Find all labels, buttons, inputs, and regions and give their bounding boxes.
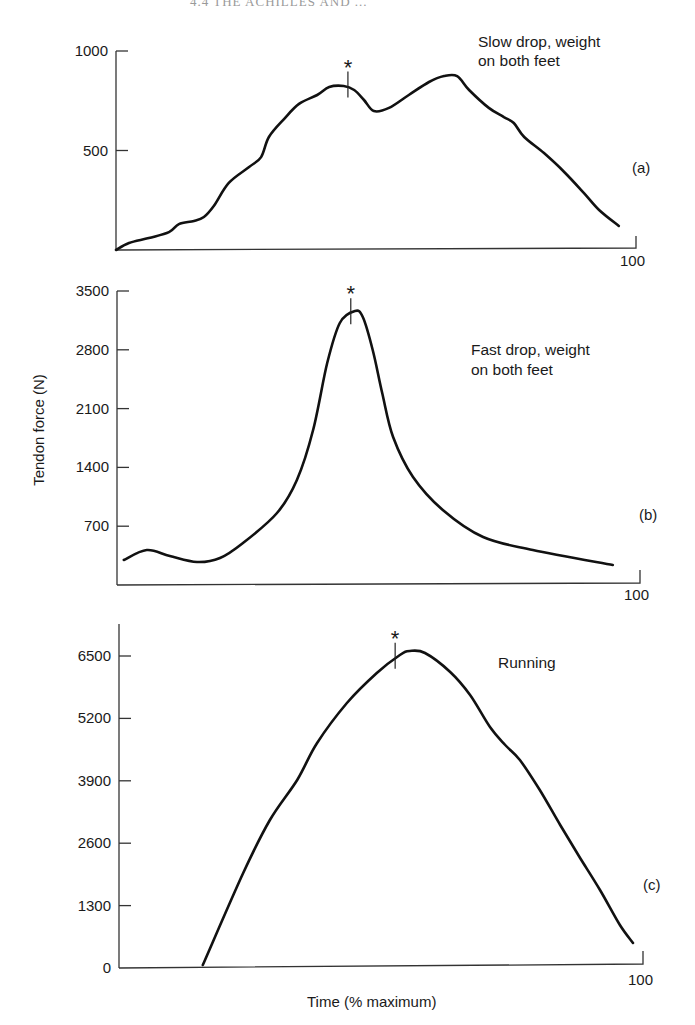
y-tick-label: 2600 — [78, 834, 111, 851]
panel-a-label: (a) — [632, 159, 650, 176]
y-tick-label: 2800 — [76, 341, 109, 358]
y-tick-label: 1300 — [78, 897, 111, 914]
panel-a-title-line1: Slow drop, weight — [478, 33, 601, 50]
panel-c-label: (c) — [643, 876, 661, 893]
panel-a-title-line2: on both feet — [478, 52, 561, 69]
panel-b-fast-drop: 7001400210028003500 100 * Fast drop, wei… — [76, 281, 658, 603]
panel-a-x-axis — [116, 236, 636, 250]
y-tick-label: 2100 — [76, 400, 109, 417]
panel-b-peak-marker: * — [346, 281, 355, 324]
panel-a-peak-marker: * — [344, 55, 353, 98]
y-tick-label: 1400 — [76, 458, 109, 475]
y-tick-label: 0 — [103, 959, 111, 976]
y-axis-title: Tendon force (N) — [30, 374, 47, 486]
y-tick-label: 6500 — [78, 647, 111, 664]
y-tick-label: 700 — [84, 517, 109, 534]
panel-b-title-line2: on both feet — [471, 361, 554, 378]
y-tick-label: 5200 — [78, 709, 111, 726]
y-tick-label: 3500 — [76, 282, 109, 299]
panel-c-title: Running — [498, 654, 556, 671]
tendon-force-figure: 5001000 100 * Slow drop, weight on both … — [0, 0, 695, 1025]
y-tick-label: 500 — [83, 142, 108, 159]
y-tick-label: 3900 — [78, 772, 111, 789]
panel-c-y-ticks: 013002600390052006500 — [78, 647, 131, 976]
panel-c-x-axis — [119, 951, 643, 968]
panel-b-y-ticks: 7001400210028003500 — [76, 282, 129, 534]
panel-b-label: (b) — [639, 506, 657, 523]
panel-c-peak-marker: * — [391, 626, 400, 669]
peak-asterisk-icon: * — [346, 281, 355, 306]
panel-b-title-line1: Fast drop, weight — [471, 341, 591, 358]
panel-c-running: 013002600390052006500 100 * Running (c) — [78, 624, 661, 988]
panel-a-x-tick-100: 100 — [620, 252, 645, 269]
y-tick-label: 1000 — [75, 42, 108, 59]
panel-a-force-curve — [116, 75, 619, 250]
x-axis-title: Time (% maximum) — [307, 993, 436, 1010]
peak-asterisk-icon: * — [391, 626, 400, 651]
peak-asterisk-icon: * — [344, 55, 353, 80]
panel-c-x-tick-100: 100 — [628, 971, 653, 988]
panel-a-y-ticks: 5001000 — [75, 42, 128, 159]
panel-b-x-axis — [117, 570, 640, 585]
panel-c-force-curve — [203, 651, 633, 965]
panel-b-x-tick-100: 100 — [624, 586, 649, 603]
panel-a-slow-drop: 5001000 100 * Slow drop, weight on both … — [75, 33, 651, 269]
